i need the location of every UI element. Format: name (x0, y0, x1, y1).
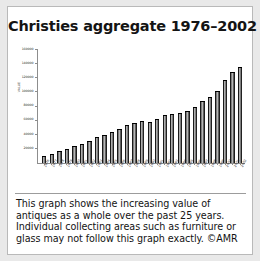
bar-slot (169, 50, 177, 163)
bar-slot (101, 50, 109, 163)
x-axis-label-slot: 1978 (55, 165, 63, 187)
x-axis-label-slot: 1989 (138, 165, 146, 187)
y-axis-tick: 20000 (35, 148, 38, 149)
y-axis-tick-label: 20000 (24, 146, 34, 150)
bar (117, 129, 121, 163)
bar (178, 113, 182, 163)
caption-line: antiques as a whole over the past 25 yea… (16, 210, 247, 222)
x-axis-label-slot: 1977 (47, 165, 55, 187)
plot-area: 2000040000600008000010000012000014000016… (37, 50, 245, 164)
divider (15, 193, 246, 194)
x-axis-label-slot: 1988 (130, 165, 138, 187)
bar-chart: VALUE 2000040000600008000010000012000014… (14, 43, 247, 191)
bar (102, 135, 106, 163)
bar-slot (221, 50, 229, 163)
bar-slot (93, 50, 101, 163)
x-axis-label-slot: 1980 (70, 165, 78, 187)
bar-slot (56, 50, 64, 163)
bar-slot (116, 50, 124, 163)
y-axis-tick: 120000 (35, 77, 38, 78)
bar-slot (236, 50, 244, 163)
bar-series (39, 50, 245, 163)
x-axis-label-slot: 1997 (199, 165, 207, 187)
caption-line: glass may not follow this graph exactly.… (16, 233, 247, 245)
x-axis-label-slot: 1995 (183, 165, 191, 187)
x-axis-label-slot: 1999 (214, 165, 222, 187)
bar (140, 121, 144, 163)
x-axis-label-slot: 1984 (100, 165, 108, 187)
y-axis-tick-label: 100000 (22, 89, 34, 93)
bar-slot (214, 50, 222, 163)
x-axis-label-slot: 1979 (62, 165, 70, 187)
y-axis-tick: 140000 (35, 63, 38, 64)
caption-line: Individual collecting areas such as furn… (16, 221, 247, 233)
y-axis-tick: 60000 (35, 120, 38, 121)
y-axis-title: VALUE (17, 64, 21, 110)
y-axis-tick: 40000 (35, 134, 38, 135)
bar-slot (123, 50, 131, 163)
bar (200, 101, 204, 163)
bar (215, 91, 219, 163)
bar-slot (206, 50, 214, 163)
caption-text: This graph shows the increasing value of… (16, 198, 247, 244)
y-axis-tick-label: 40000 (24, 132, 34, 136)
bar-slot (41, 50, 49, 163)
bar (170, 114, 174, 163)
bar (163, 115, 167, 163)
bar-slot (146, 50, 154, 163)
x-axis-label-slot: 1985 (108, 165, 116, 187)
x-axis-label-slot: 1986 (115, 165, 123, 187)
x-axis-labels: 1976197719781979198019811982198319841985… (38, 165, 245, 187)
caption-line: This graph shows the increasing value of (16, 198, 247, 210)
bar-slot (199, 50, 207, 163)
bar-slot (191, 50, 199, 163)
bar-slot (229, 50, 237, 163)
y-axis-tick: 160000 (35, 49, 38, 50)
x-axis-label-slot: 1990 (146, 165, 154, 187)
y-axis-tick-label: 120000 (22, 75, 34, 79)
bar-slot (153, 50, 161, 163)
bar (230, 72, 234, 163)
bar-slot (161, 50, 169, 163)
bar-slot (184, 50, 192, 163)
x-axis-label-slot: 1976 (40, 165, 48, 187)
x-axis-label-slot: 2001 (229, 165, 237, 187)
y-axis-tick: 80000 (35, 106, 38, 107)
x-axis-label-slot: 1982 (85, 165, 93, 187)
bar-slot (86, 50, 94, 163)
bar-slot (48, 50, 56, 163)
bar-slot (71, 50, 79, 163)
x-axis-label-slot: 1991 (153, 165, 161, 187)
bar (223, 80, 227, 163)
bar (238, 67, 242, 163)
page-title: Christies aggregate 1976–2002 (8, 18, 252, 34)
x-axis-label-slot: 1981 (77, 165, 85, 187)
x-axis-label-slot: 1996 (191, 165, 199, 187)
bar (193, 107, 197, 163)
bar-slot (63, 50, 71, 163)
x-axis-label-slot: 2000 (221, 165, 229, 187)
x-axis-label-slot: 1993 (168, 165, 176, 187)
bar (155, 119, 159, 163)
bar-slot (138, 50, 146, 163)
x-axis-label-slot: 1983 (93, 165, 101, 187)
y-axis-tick-label: 80000 (24, 103, 34, 107)
x-axis-label-slot: 2002 (237, 165, 245, 187)
bar-slot (176, 50, 184, 163)
bar (208, 97, 212, 163)
bar (110, 132, 114, 163)
chart-card: Christies aggregate 1976–2002 VALUE 2000… (7, 6, 253, 255)
bar-slot (78, 50, 86, 163)
y-axis-tick: 100000 (35, 91, 38, 92)
y-axis-tick-label: 140000 (22, 61, 34, 65)
bar (148, 122, 152, 163)
bar (125, 125, 129, 163)
bar-slot (108, 50, 116, 163)
bar (185, 111, 189, 163)
x-axis-label-slot: 1998 (206, 165, 214, 187)
y-axis-tick-label: 60000 (24, 117, 34, 121)
y-axis-tick-label: 160000 (22, 47, 34, 51)
bar (132, 123, 136, 163)
x-axis-label-slot: 1987 (123, 165, 131, 187)
x-axis-label-slot: 1992 (161, 165, 169, 187)
